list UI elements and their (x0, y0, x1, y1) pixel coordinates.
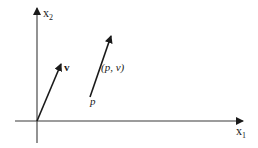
x2-axis-label: x2 (43, 7, 53, 19)
vector-pv-label: (p, v) (101, 62, 124, 73)
point-p-label: p (90, 96, 96, 107)
x2-axis-subscript: 2 (49, 13, 53, 22)
vector-v-label: v (64, 62, 70, 73)
x1-axis-label: x1 (236, 125, 246, 137)
vector-diagram-canvas (0, 0, 258, 148)
x1-axis-subscript: 1 (242, 131, 246, 140)
vector-v-arrow (37, 64, 61, 121)
